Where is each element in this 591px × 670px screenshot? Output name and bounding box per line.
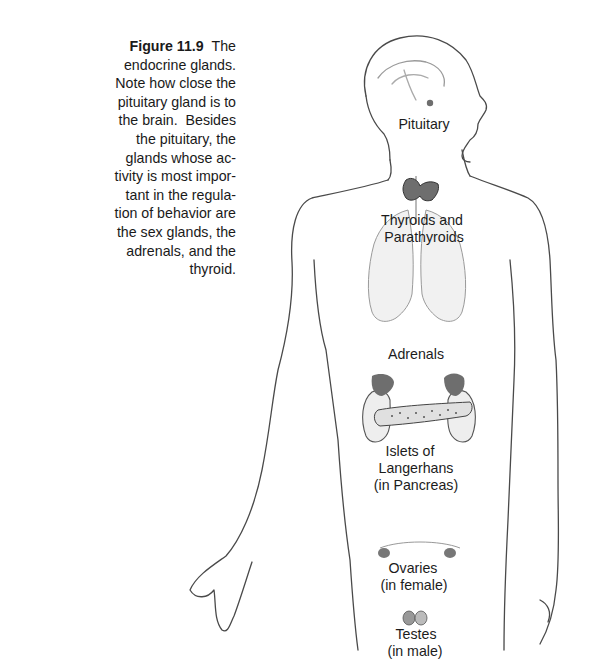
adrenal-glands bbox=[372, 374, 465, 397]
label-in-male: (in male) bbox=[387, 643, 442, 660]
thyroid-gland bbox=[403, 178, 439, 200]
head-outline bbox=[364, 36, 486, 162]
label-islets: Islets of bbox=[386, 443, 435, 460]
label-thyroids: Thyroids and bbox=[381, 212, 463, 229]
label-langerhans: Langerhans bbox=[379, 460, 454, 477]
torso-left-inner bbox=[314, 260, 358, 650]
right-ovary bbox=[444, 548, 456, 558]
torso-right bbox=[470, 176, 559, 644]
left-ovary bbox=[378, 548, 390, 558]
label-in-female: (in female) bbox=[380, 577, 447, 594]
label-testes: Testes bbox=[395, 626, 436, 643]
torso-left bbox=[190, 180, 388, 631]
pituitary-gland bbox=[427, 100, 433, 106]
label-parathyroids: Parathyroids bbox=[384, 229, 464, 246]
endocrine-body-illustration bbox=[0, 0, 591, 670]
right-testis bbox=[415, 611, 427, 625]
left-testis bbox=[403, 611, 415, 625]
torso-right-inner bbox=[504, 260, 515, 650]
label-adrenals: Adrenals bbox=[388, 346, 444, 363]
label-pituitary: Pituitary bbox=[398, 116, 449, 133]
label-ovaries: Ovaries bbox=[389, 560, 438, 577]
label-pancreas: (in Pancreas) bbox=[374, 477, 458, 494]
